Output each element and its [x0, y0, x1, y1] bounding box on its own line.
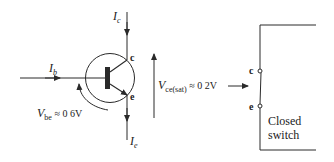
collector-terminal-label: c	[130, 52, 135, 63]
collector-lead-diagonal	[110, 60, 127, 72]
switch-blade-closed	[260, 73, 261, 104]
collector-current-label: Ic	[112, 9, 121, 25]
closed-switch-caption-line1: Closed	[268, 114, 301, 128]
transistor-switch-diagram: Ic c e Ie Ib Vbe ≈ 0 6V Vce(sat) ≈ 0 2V	[0, 0, 334, 162]
switch-terminal-c	[258, 69, 262, 73]
emitter-terminal-label: e	[130, 91, 135, 102]
collector-branch: Ic c	[112, 9, 135, 63]
emitter-branch: e Ie	[127, 91, 138, 150]
switch-circuit-top-wire	[260, 25, 316, 69]
vbe-curved-arrow-icon	[79, 84, 108, 110]
base-current-label: Ib	[48, 61, 57, 77]
closed-switch-equivalent: c e Closed switch	[249, 25, 316, 150]
switch-terminal-c-label: c	[249, 65, 254, 76]
vbe-label: Vbe ≈ 0 6V	[37, 106, 83, 122]
switch-terminal-e-label: e	[249, 101, 254, 112]
closed-switch-caption-line2: switch	[268, 128, 299, 142]
switch-terminal-e	[258, 104, 262, 108]
vce-sat-label: Vce(sat) ≈ 0 2V	[158, 78, 218, 94]
emitter-current-label: Ie	[129, 134, 138, 150]
vce-sat-annotation: Vce(sat) ≈ 0 2V	[154, 54, 248, 118]
vbe-annotation: Vbe ≈ 0 6V	[37, 84, 108, 122]
base-branch: Ib	[20, 61, 106, 78]
emitter-lead-diagonal	[110, 84, 127, 95]
